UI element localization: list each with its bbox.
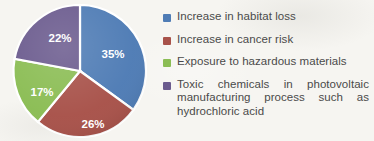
legend-item-toxic-chemicals[interactable]: Toxic chemicals in photovoltaic manufact…	[163, 78, 369, 119]
chart-legend: Increase in habitat loss Increase in can…	[163, 10, 369, 118]
pie-sheen-overlay	[14, 5, 146, 137]
legend-label-habitat-loss: Increase in habitat loss	[177, 10, 296, 24]
pie-label-habitat-loss: 35%	[101, 48, 124, 60]
legend-item-cancer-risk[interactable]: Increase in cancer risk	[163, 33, 369, 47]
legend-item-hazardous-materials[interactable]: Exposure to hazardous materials	[163, 55, 369, 69]
legend-label-toxic-chemicals: Toxic chemicals in photovoltaic manufact…	[177, 78, 369, 119]
pie-chart-plot-area: 35% 26% 17% 22%	[8, 4, 158, 141]
pie-label-cancer-risk: 26%	[81, 118, 104, 130]
legend-item-habitat-loss[interactable]: Increase in habitat loss	[163, 10, 369, 24]
legend-swatch-toxic-chemicals	[163, 82, 171, 90]
legend-label-hazardous-materials: Exposure to hazardous materials	[177, 55, 347, 69]
legend-swatch-hazardous-materials	[163, 59, 171, 67]
legend-label-cancer-risk: Increase in cancer risk	[177, 33, 293, 47]
pie-chart-figure: 35% 26% 17% 22% Increase in habitat loss…	[0, 0, 374, 141]
legend-swatch-habitat-loss	[163, 14, 171, 22]
legend-swatch-cancer-risk	[163, 37, 171, 45]
pie-label-hazardous-materials: 17%	[30, 86, 53, 98]
pie-chart-svg: 35% 26% 17% 22%	[8, 4, 158, 141]
pie-label-toxic-chemicals: 22%	[48, 32, 71, 44]
